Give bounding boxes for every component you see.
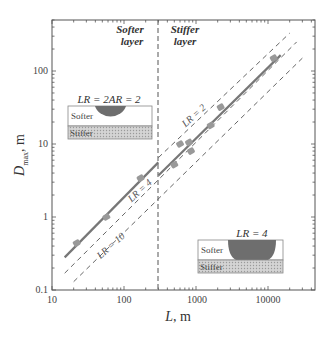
chart: 10 100 1000 10000 0.1 1 10 100 L, m Dmax… [0, 0, 333, 338]
inset-left-title: LR = 2AR = 2 [76, 93, 141, 105]
x-tick-label: 1000 [187, 294, 207, 305]
y-axis-title: Dmax, m [12, 134, 30, 177]
y-tick-labels: 0.1 1 10 100 [33, 65, 48, 295]
inset-left-stiffer: Stiffer [70, 128, 93, 138]
x-tick-labels: 10 100 1000 10000 [47, 294, 281, 305]
inset-right: LR = 4 Softer Stiffer [198, 227, 283, 273]
y-tick-label: 10 [38, 138, 48, 149]
inset-right-stiffer: Stiffer [200, 262, 223, 272]
lr10-label: LR = 10 [94, 230, 127, 261]
softer-layer-label: layer [121, 35, 144, 47]
x-tick-label: 10 [47, 294, 57, 305]
inset-left: LR = 2AR = 2 Softer Stiffer [68, 93, 152, 139]
fit-line [158, 55, 280, 175]
reference-line [158, 33, 289, 158]
y-tick-label: 1 [43, 211, 48, 222]
y-tick-label: 100 [33, 65, 48, 76]
data-point [175, 140, 184, 149]
lr2-label: LR = 2 [179, 102, 208, 130]
y-tick-label: 0.1 [36, 284, 49, 295]
data-point [72, 239, 81, 248]
stiffer-layer-label: layer [174, 35, 197, 47]
x-tick-label: 10000 [256, 294, 281, 305]
stiffer-layer-label: Stiffer [171, 23, 200, 35]
data-point [102, 213, 111, 222]
x-axis-title: L, m [164, 309, 191, 324]
x-tick-label: 100 [117, 294, 132, 305]
softer-layer-label: Softer [116, 23, 144, 35]
dome-shape [228, 240, 276, 260]
inset-right-title: LR = 4 [235, 227, 268, 239]
svg-text:Dmax, m: Dmax, m [12, 134, 30, 177]
inset-left-softer: Softer [71, 111, 93, 121]
inset-right-softer: Softer [201, 245, 223, 255]
